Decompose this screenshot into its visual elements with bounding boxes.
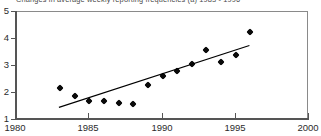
x-axis-tick [308,113,309,120]
y-axis-tick-label: 2 [4,86,9,97]
x-axis-tick [88,113,89,120]
trend-line [59,46,249,108]
y-axis-tick: 1 [11,119,17,120]
y-axis-tick-label: 5 [4,5,9,16]
x-axis-tick [235,113,236,120]
y-axis-tick: 4 [11,38,17,39]
trend-line-layer [0,0,321,136]
y-axis-tick: 3 [11,65,17,66]
x-axis-tick-label: 1990 [151,122,172,133]
x-axis-tick-label: 1980 [4,122,25,133]
x-axis-tick [162,113,163,120]
x-axis-tick-label: 2000 [297,122,318,133]
y-axis-tick: 5 [11,11,17,12]
x-axis-tick-label: 1995 [224,122,245,133]
x-axis-tick-label: 1985 [77,122,98,133]
y-axis-tick-label: 4 [4,32,9,43]
y-axis-tick: 2 [11,92,17,93]
x-axis-tick [15,113,16,120]
chart-figure: Changes in average weekly reporting freq… [0,0,321,136]
y-axis-tick-label: 3 [4,59,9,70]
